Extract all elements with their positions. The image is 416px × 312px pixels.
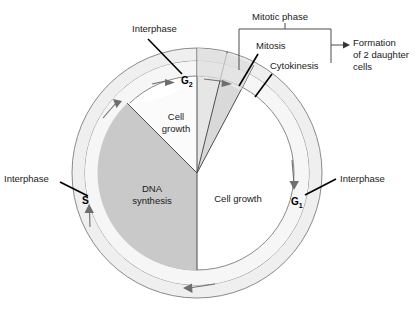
annotation-formation-line2: of 2 daughter: [353, 49, 409, 60]
s-marker: S: [82, 195, 89, 206]
label-g2-cell-growth-line2: growth: [162, 123, 191, 134]
annotation-interphase-top: Interphase: [132, 23, 177, 34]
annotation-interphase-left: Interphase: [4, 173, 49, 184]
annotation-formation-line1: Formation: [353, 37, 396, 48]
cell-cycle-figure: G2 S G1 Cell growth DNA synthesis Cell g…: [0, 0, 416, 312]
label-dna-synthesis-line1: DNA: [142, 183, 163, 194]
label-g2-cell-growth-line1: Cell: [168, 111, 184, 122]
label-g1-cell-growth: Cell growth: [214, 193, 262, 204]
g2-marker: G2: [181, 75, 193, 88]
formation-arrow-head: [343, 42, 350, 49]
annotation-mitosis: Mitosis: [256, 40, 286, 51]
annotation-formation-line3: cells: [353, 61, 372, 72]
annotation-cytokinesis: Cytokinesis: [270, 60, 319, 71]
annotation-interphase-right: Interphase: [340, 173, 385, 184]
annotation-mitotic-phase: Mitotic phase: [252, 11, 308, 22]
label-dna-synthesis-line2: synthesis: [132, 195, 172, 206]
